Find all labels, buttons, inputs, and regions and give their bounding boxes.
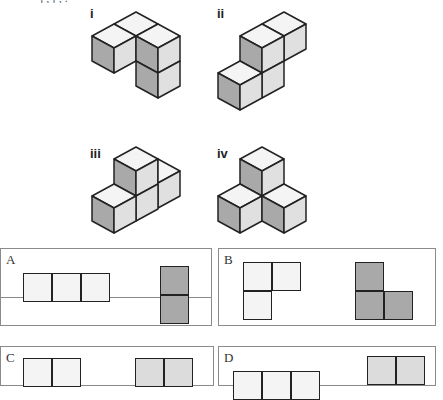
option-a-panel[interactable]: A: [0, 248, 212, 298]
figure-ii: ii: [210, 0, 330, 140]
figure-label: i: [90, 6, 94, 21]
view-square: [355, 262, 384, 291]
figure-label: ii: [217, 6, 224, 21]
option-c-panel[interactable]: C: [0, 346, 214, 386]
view-square: [164, 358, 193, 387]
view-square: [233, 371, 262, 400]
view-square: [243, 291, 272, 320]
figure-label: iii: [90, 146, 101, 161]
view-square: [52, 273, 81, 302]
view-square: [160, 295, 189, 324]
view-square: [52, 358, 81, 387]
view-square: [81, 273, 110, 302]
option-b-panel[interactable]: B: [218, 248, 436, 326]
option-d-panel[interactable]: D: [218, 346, 436, 386]
view-square: [23, 358, 52, 387]
option-label: C: [6, 350, 15, 366]
option-label: A: [6, 252, 15, 268]
isometric-cubes-i: [80, 0, 220, 140]
view-square: [291, 371, 320, 400]
view-square: [384, 291, 413, 320]
view-square: [243, 262, 272, 291]
figure-label: iv: [217, 146, 228, 161]
isometric-cubes-ii: [210, 0, 330, 140]
view-square: [160, 266, 189, 295]
view-square: [396, 356, 425, 385]
view-square: [135, 358, 164, 387]
view-square: [367, 356, 396, 385]
figure-i: i: [80, 0, 220, 140]
view-square: [262, 371, 291, 400]
option-label: D: [224, 350, 233, 366]
option-label: B: [224, 252, 233, 268]
view-square: [355, 291, 384, 320]
view-square: [23, 273, 52, 302]
view-square: [272, 262, 301, 291]
